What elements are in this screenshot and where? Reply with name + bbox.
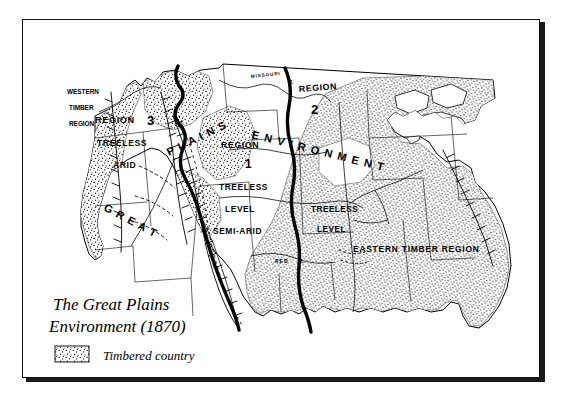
map-frame: G R E A T P L A I N S E N V I R O N M E … [22,19,540,378]
svg-text:RED: RED [275,258,289,264]
svg-text:1: 1 [245,157,252,171]
map-title: The Great Plains Environment (1870) [48,295,186,336]
svg-text:WESTERN: WESTERN [67,88,99,95]
legend-label: Timbered country [103,348,195,363]
svg-text:SEMI-ARID: SEMI-ARID [213,226,262,236]
svg-text:TREELESS: TREELESS [311,205,358,214]
label-eastern-timber-region: EASTERN TIMBER REGION [353,244,480,254]
svg-text:ARID: ARID [113,160,136,170]
label-great-arc: G R E A T [102,201,160,239]
svg-text:TREELESS: TREELESS [97,138,147,148]
svg-text:REGION: REGION [69,120,95,127]
map-page: G R E A T P L A I N S E N V I R O N M E … [0,0,566,407]
svg-text:REGION: REGION [95,115,135,125]
svg-text:3: 3 [147,113,154,128]
svg-text:2: 2 [311,102,318,117]
svg-text:The Great Plains: The Great Plains [53,295,170,314]
svg-text:TIMBER: TIMBER [69,104,94,111]
legend: Timbered country [55,346,195,363]
svg-text:REGION: REGION [221,140,259,150]
great-plains-map: G R E A T P L A I N S E N V I R O N M E … [23,20,538,376]
svg-text:LEVEL: LEVEL [317,225,346,234]
svg-text:EASTERN TIMBER REGION: EASTERN TIMBER REGION [353,244,480,254]
svg-text:G R E A T: G R E A T [102,201,160,239]
svg-text:TREELESS: TREELESS [219,182,268,192]
svg-text:LEVEL: LEVEL [225,204,255,214]
svg-text:R.: R. [299,258,305,264]
stipple-swatch [55,346,89,362]
svg-text:Environment (1870): Environment (1870) [48,317,186,336]
svg-text:R.: R. [289,80,294,85]
